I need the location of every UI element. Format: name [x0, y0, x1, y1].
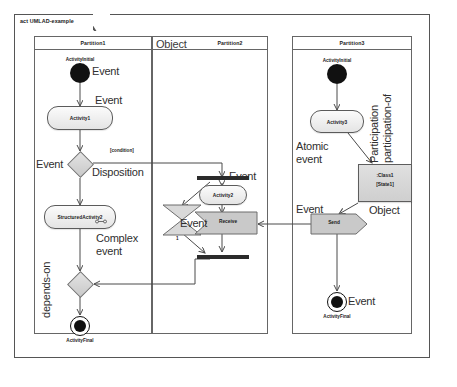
activity3-node[interactable]: Activity3: [310, 110, 364, 133]
activity-final-caption-p3: ActivityFinal: [310, 314, 364, 319]
frame-tab-label: act UMLAD-example: [20, 18, 74, 24]
structured-activity2-node[interactable]: StructuredActivity2: [44, 205, 116, 229]
annotation-atomic-event-line2: event: [296, 153, 322, 165]
annotation-event-send: Event: [296, 203, 323, 215]
partition-3-title: Partition3: [293, 40, 411, 46]
annotation-participation-of: participation-of: [381, 94, 393, 163]
time-event-counter-label: 1: [176, 236, 179, 241]
class-object-name: :Class1: [359, 173, 411, 178]
receive-label: Receive: [205, 219, 251, 224]
decision-guard-label: [condition]: [110, 148, 134, 153]
activity1-label: Activity1: [48, 116, 112, 121]
partition-2-object-caption: Object: [156, 38, 187, 50]
partition-2-title: Partition2: [193, 40, 267, 46]
frame-tab-corner-cut: [93, 14, 110, 31]
activity-initial-node-p3[interactable]: [327, 64, 347, 84]
activity-initial-caption-p1: ActivityInitial: [53, 57, 107, 62]
activity-initial-node-p1[interactable]: [70, 63, 90, 83]
annotation-participation: Participation: [368, 105, 380, 163]
annotation-object-label: Object: [369, 204, 400, 216]
activity-final-inner-p1: [74, 320, 86, 332]
annotation-complex-event-line1: Complex: [96, 232, 138, 244]
partition-1-header: Partition1: [35, 37, 151, 50]
frame-title-tab: act UMLAD-example: [14, 14, 109, 30]
activity2-label: Activity2: [200, 193, 246, 198]
activity-final-node-p3[interactable]: [327, 292, 347, 312]
class-object-state: [State1]: [359, 182, 411, 187]
annotation-event-timeevent: Event: [180, 217, 207, 229]
join-node-p2[interactable]: [197, 255, 249, 259]
activity-initial-caption-p3: ActivityInitial: [310, 58, 364, 63]
activity-final-inner-p3: [331, 296, 343, 308]
annotation-atomic-event-line1: Atomic: [296, 140, 328, 152]
sub-activity-rake-icon: [95, 219, 107, 224]
send-label: Send: [312, 220, 356, 225]
annotation-event-final-p3: Event: [348, 295, 375, 307]
activity1-node[interactable]: Activity1: [47, 106, 113, 130]
annotation-depends-on: depends-on: [40, 262, 52, 318]
activity2-node[interactable]: Activity2: [199, 185, 247, 205]
activity-final-caption-p1: ActivityFinal: [53, 338, 107, 343]
annotation-event-initial-p1: Event: [92, 65, 119, 77]
annotation-event-activity1: Event: [95, 94, 122, 106]
activity3-label: Activity3: [311, 119, 363, 124]
class-object-node[interactable]: :Class1 [State1]: [358, 164, 412, 202]
annotation-complex-event-line2: event: [96, 245, 122, 257]
annotation-event-decision: Event: [36, 158, 63, 170]
annotation-disposition: Disposition: [92, 166, 144, 178]
partition-3-header: Partition3: [293, 37, 411, 50]
partition-1-title: Partition1: [35, 40, 151, 46]
annotation-event-fork: Event: [229, 170, 256, 182]
activity-final-node-p1[interactable]: [70, 316, 90, 336]
